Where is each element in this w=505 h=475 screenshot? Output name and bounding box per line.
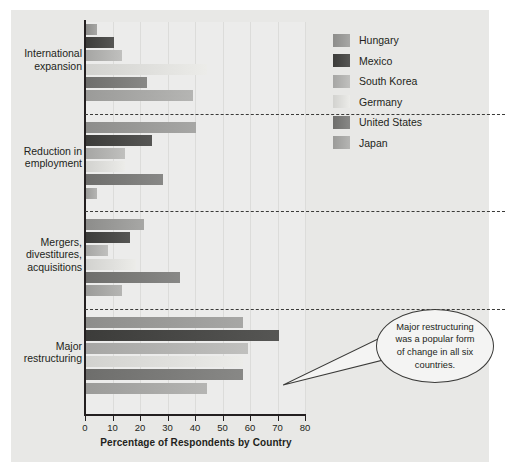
x-tick-label: 0: [73, 422, 97, 433]
legend-swatch-japan: [333, 136, 350, 149]
bar-united-states-reduction-in-employment: [86, 174, 163, 185]
x-tick-label: 50: [211, 422, 235, 433]
bar-japan-international-expansion: [86, 90, 193, 101]
bar-united-states-mergers-divestitures-acquisitions: [86, 272, 180, 283]
x-tick: [195, 416, 196, 421]
category-label-international-expansion: Internationalexpansion: [0, 47, 82, 72]
x-tick: [278, 416, 279, 421]
category-label-line: employment: [0, 157, 82, 170]
legend: HungaryMexicoSouth KoreaGermanyUnited St…: [333, 30, 422, 153]
category-label-mergers-divestitures-acquisitions: Mergers,divestitures,acquisitions: [0, 236, 82, 274]
legend-item-mexico[interactable]: Mexico: [333, 51, 422, 72]
bar-japan-major-restructuring: [86, 383, 207, 394]
bar-hungary-mergers-divestitures-acquisitions: [86, 219, 144, 230]
bar-south-korea-international-expansion: [86, 50, 122, 61]
x-tick: [85, 416, 86, 421]
legend-label: Hungary: [359, 34, 399, 46]
bar-south-korea-mergers-divestitures-acquisitions: [86, 245, 108, 256]
x-tick: [168, 416, 169, 421]
legend-item-hungary[interactable]: Hungary: [333, 30, 422, 51]
legend-item-germany[interactable]: Germany: [333, 92, 422, 113]
callout-bubble: Major restructuringwas a popular formof …: [376, 309, 494, 383]
category-label-line: International: [0, 47, 82, 60]
bar-hungary-international-expansion: [86, 24, 97, 35]
bar-united-states-international-expansion: [86, 77, 147, 88]
legend-swatch-south-korea: [333, 75, 350, 88]
legend-swatch-united-states: [333, 116, 350, 129]
bar-germany-international-expansion: [86, 64, 207, 75]
gridline: [250, 22, 251, 414]
category-label-line: expansion: [0, 60, 82, 73]
x-tick: [223, 416, 224, 421]
x-tick-label: 40: [183, 422, 207, 433]
bar-mexico-mergers-divestitures-acquisitions: [86, 232, 130, 243]
bar-germany-mergers-divestitures-acquisitions: [86, 259, 136, 270]
x-tick-label: 80: [293, 422, 317, 433]
category-label-line: Mergers,: [0, 236, 82, 249]
category-label-line: divestitures,: [0, 248, 82, 261]
bar-mexico-major-restructuring: [86, 330, 279, 341]
x-axis-title: Percentage of Respondents by Country: [85, 437, 307, 448]
legend-label: United States: [359, 116, 422, 128]
x-tick-label: 20: [128, 422, 152, 433]
x-tick: [250, 416, 251, 421]
bar-united-states-major-restructuring: [86, 369, 243, 380]
bar-japan-mergers-divestitures-acquisitions: [86, 285, 122, 296]
legend-item-united-states[interactable]: United States: [333, 112, 422, 133]
category-label-line: restructuring: [0, 352, 82, 365]
x-tick-label: 60: [238, 422, 262, 433]
legend-swatch-germany: [333, 95, 350, 108]
category-label-reduction-in-employment: Reduction inemployment: [0, 145, 82, 170]
legend-item-japan[interactable]: Japan: [333, 133, 422, 154]
bar-germany-major-restructuring: [86, 356, 243, 367]
bar-hungary-reduction-in-employment: [86, 122, 196, 133]
x-tick-label: 70: [266, 422, 290, 433]
legend-item-south-korea[interactable]: South Korea: [333, 71, 422, 92]
category-label-line: Major: [0, 340, 82, 353]
x-tick-label: 30: [156, 422, 180, 433]
category-label-line: acquisitions: [0, 261, 82, 274]
group-separator: [85, 114, 505, 115]
legend-label: South Korea: [359, 75, 417, 87]
bar-hungary-major-restructuring: [86, 317, 243, 328]
x-tick-label: 10: [101, 422, 125, 433]
x-tick: [113, 416, 114, 421]
legend-label: Mexico: [359, 55, 392, 67]
callout-text: Major restructuringwas a popular formof …: [386, 321, 483, 371]
bar-south-korea-reduction-in-employment: [86, 148, 125, 159]
category-label-major-restructuring: Majorrestructuring: [0, 340, 82, 365]
bar-mexico-reduction-in-employment: [86, 135, 152, 146]
x-tick: [140, 416, 141, 421]
legend-swatch-hungary: [333, 34, 350, 47]
legend-swatch-mexico: [333, 54, 350, 67]
bar-japan-reduction-in-employment: [86, 188, 97, 199]
legend-label: Japan: [359, 137, 388, 149]
gridline: [278, 22, 279, 414]
bar-mexico-international-expansion: [86, 37, 114, 48]
bar-germany-reduction-in-employment: [86, 161, 125, 172]
group-separator: [85, 211, 505, 212]
bar-south-korea-major-restructuring: [86, 343, 248, 354]
legend-label: Germany: [359, 96, 402, 108]
category-label-line: Reduction in: [0, 145, 82, 158]
x-tick: [305, 416, 306, 421]
